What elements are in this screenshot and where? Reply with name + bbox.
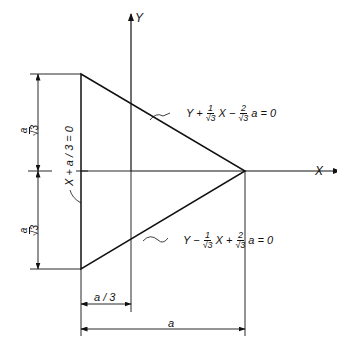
- fraction: 1 √3: [202, 231, 214, 250]
- fraction: 2 √3: [234, 231, 246, 250]
- width-label: a: [168, 318, 174, 329]
- x-axis-label: X: [315, 165, 323, 177]
- diagram-graphics: [0, 0, 337, 349]
- fraction: 2 √3: [237, 104, 249, 123]
- lower-line-equation: Y − 1 √3 X + 2 √3 a = 0: [183, 231, 273, 250]
- upper-height-label: a √3: [14, 123, 40, 138]
- left-line-equation: X + a / 3 = 0: [64, 126, 75, 186]
- triangle-diagram: Y X Y + 1 √3 X − 2 √3 a = 0 Y − 1 √3 X +…: [0, 0, 337, 349]
- upper-line-equation: Y + 1 √3 X − 2 √3 a = 0: [186, 104, 276, 123]
- y-axis-label: Y: [135, 12, 143, 24]
- offset-label: a / 3: [94, 292, 115, 303]
- fraction: 1 √3: [205, 104, 217, 123]
- lower-height-label: a √3: [14, 223, 40, 238]
